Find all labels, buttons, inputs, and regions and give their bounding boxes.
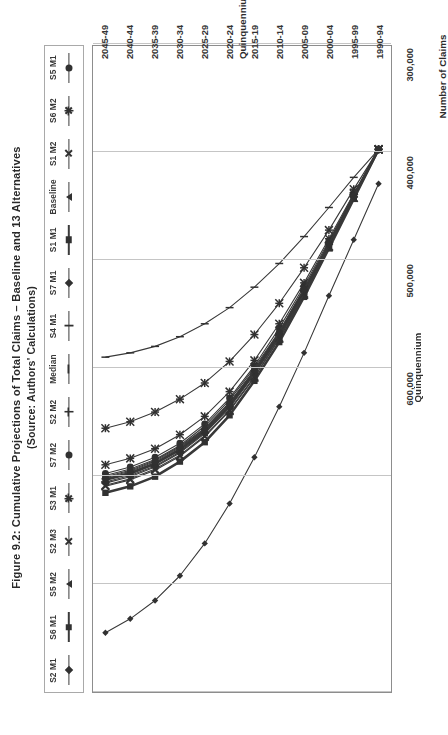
series-line bbox=[105, 149, 378, 479]
y-axis-tick-label: 600,000 bbox=[405, 372, 415, 428]
data-point-marker-square bbox=[127, 483, 133, 489]
plot-area bbox=[92, 45, 392, 693]
legend-item-label: S2 M2 bbox=[48, 400, 58, 425]
legend-item-sample bbox=[60, 311, 77, 341]
legend-sample-marker bbox=[64, 537, 73, 546]
data-point-marker-circle bbox=[325, 241, 332, 248]
legend-item-label: S6 M2 bbox=[48, 98, 58, 123]
series-s2-m3 bbox=[101, 145, 382, 490]
data-point-marker-circle bbox=[301, 286, 308, 293]
series-line bbox=[105, 184, 378, 633]
series-line bbox=[105, 149, 378, 483]
data-point-marker-circle bbox=[201, 426, 208, 433]
series-s1-m2 bbox=[101, 145, 382, 489]
marker-square-icon bbox=[65, 237, 72, 244]
legend-sample-marker bbox=[65, 624, 72, 631]
y-axis-tick-label: 400,000 bbox=[405, 156, 415, 212]
legend-item-s4-m1: S4 M1 bbox=[45, 304, 83, 347]
legend-sample-marker bbox=[64, 408, 73, 417]
legend-item-sample bbox=[60, 397, 77, 427]
legend-item-sample bbox=[60, 655, 77, 685]
series-s6-m1 bbox=[102, 146, 382, 483]
legend-sample-marker bbox=[64, 149, 73, 158]
series-s5-m1 bbox=[102, 146, 382, 481]
data-point-marker-diamond bbox=[226, 500, 232, 506]
y-axis-tick-label: 300,000 bbox=[405, 48, 415, 104]
legend-item-label: S7 M2 bbox=[48, 443, 58, 468]
legend-item-sample bbox=[60, 53, 77, 83]
series-line bbox=[105, 149, 378, 492]
y-axis-title-flat: Number of Claims bbox=[437, 12, 448, 142]
marker-star-icon bbox=[64, 106, 73, 115]
series-s2-m2 bbox=[101, 145, 382, 482]
legend-sample-marker bbox=[64, 321, 73, 330]
marker-diamond-icon bbox=[64, 279, 72, 287]
legend-item-sample bbox=[60, 612, 77, 642]
marker-x-icon bbox=[64, 149, 73, 158]
data-point-marker-star bbox=[101, 461, 109, 469]
x-axis-tick-label: 2040-44 bbox=[125, 19, 135, 65]
value-gridline bbox=[93, 475, 391, 476]
legend-item-label: S4 M1 bbox=[48, 314, 58, 339]
legend-item-sample bbox=[60, 268, 77, 298]
series-line bbox=[105, 149, 378, 473]
series-line bbox=[105, 149, 378, 478]
x-axis-tick-label: 1995-99 bbox=[350, 19, 360, 65]
data-point-marker-diamond bbox=[276, 403, 282, 409]
legend-item-s5-m2: S5 M2 bbox=[45, 563, 83, 606]
data-point-marker-star bbox=[201, 412, 209, 420]
legend-item-sample bbox=[60, 569, 77, 599]
data-point-marker-circle bbox=[152, 458, 159, 465]
data-point-marker-circle bbox=[226, 400, 233, 407]
data-point-marker-diamond bbox=[375, 181, 381, 187]
series-line bbox=[105, 149, 378, 486]
data-point-marker-star bbox=[300, 279, 308, 287]
legend-item-label: S3 M1 bbox=[48, 486, 58, 511]
legend-item-label: S2 M3 bbox=[48, 529, 58, 554]
data-point-marker-diamond bbox=[301, 350, 307, 356]
legend-item-s5-m1: S5 M1 bbox=[45, 46, 83, 89]
data-point-marker-star bbox=[226, 388, 234, 396]
chart-legend: S2 M1S6 M1S5 M2S2 M3S3 M1S7 M2S2 M2Media… bbox=[44, 45, 84, 693]
series-line bbox=[105, 149, 378, 476]
legend-sample-marker bbox=[65, 452, 72, 459]
marker-star-icon bbox=[64, 494, 73, 503]
data-point-marker-circle bbox=[276, 329, 283, 336]
legend-item-label: S1 M1 bbox=[48, 227, 58, 252]
legend-item-s7-m1: S7 M1 bbox=[45, 261, 83, 304]
data-point-marker-star bbox=[201, 379, 209, 387]
series-median bbox=[105, 145, 378, 479]
figure-title-line-2: (Source: Authors' Calculations) bbox=[24, 0, 39, 735]
legend-sample-marker bbox=[64, 365, 73, 374]
legend-sample-marker bbox=[66, 280, 72, 286]
series-s1-m1 bbox=[102, 146, 382, 496]
data-point-marker-star bbox=[250, 356, 258, 364]
legend-item-s2-m1: S2 M1 bbox=[45, 649, 83, 692]
legend-item-sample bbox=[60, 526, 77, 556]
data-point-marker-star bbox=[176, 395, 184, 403]
data-point-marker-diamond bbox=[351, 237, 357, 243]
legend-item-label: S5 M1 bbox=[48, 55, 58, 80]
data-point-marker-star bbox=[275, 299, 283, 307]
legend-item-s1-m2: S1 M2 bbox=[45, 132, 83, 175]
x-axis-tick-label: 2000-04 bbox=[325, 19, 335, 65]
data-point-marker-diamond bbox=[326, 293, 332, 299]
legend-item-sample bbox=[60, 483, 77, 513]
x-axis-tick-label: 2015-19 bbox=[250, 19, 260, 65]
x-axis-title-flat: Quinquennium bbox=[237, 0, 248, 85]
marker-triangle-icon bbox=[66, 580, 72, 588]
marker-x-icon bbox=[64, 537, 73, 546]
legend-item-s7-m2: S7 M2 bbox=[45, 434, 83, 477]
x-axis-tick-label: 2020-24 bbox=[225, 19, 235, 65]
value-gridline bbox=[93, 259, 391, 260]
y-axis-tick-label: 500,000 bbox=[405, 264, 415, 320]
legend-sample-marker bbox=[65, 237, 72, 244]
series-s7-m2 bbox=[102, 146, 382, 477]
x-axis-tick-label: 2005-09 bbox=[300, 19, 310, 65]
legend-item-sample bbox=[60, 96, 77, 126]
legend-item-median: Median bbox=[45, 348, 83, 391]
legend-item-sample bbox=[60, 225, 77, 255]
legend-item-sample bbox=[60, 182, 77, 212]
